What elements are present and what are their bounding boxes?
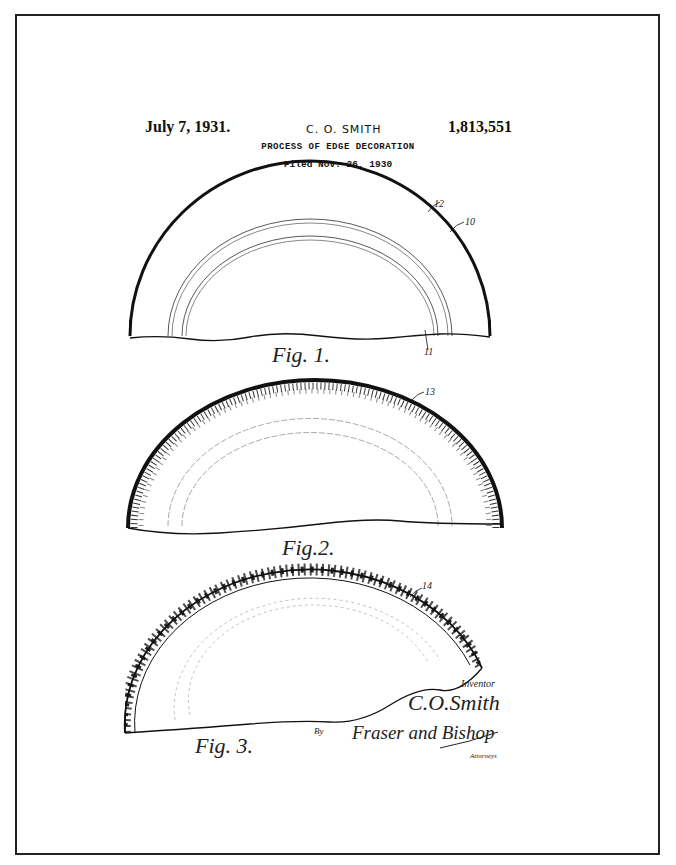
inventor-caption: Inventor xyxy=(461,678,495,689)
ref-numeral-11: 11 xyxy=(424,346,433,357)
ref-numeral-13: 13 xyxy=(425,386,435,397)
patent-drawings xyxy=(0,0,676,865)
figure-2-drawing xyxy=(128,380,502,534)
inventor-signature: C.O.Smith xyxy=(408,690,500,716)
figure-2-label: Fig.2. xyxy=(282,535,335,561)
figure-3-label: Fig. 3. xyxy=(195,733,253,759)
by-label: By xyxy=(314,726,324,736)
figure-1-drawing xyxy=(130,161,490,350)
attorneys-signature: Fraser and Bishop xyxy=(352,722,495,744)
figure-1-label: Fig. 1. xyxy=(272,342,330,368)
ref-numeral-12: 12 xyxy=(434,198,444,209)
ref-numeral-14: 14 xyxy=(422,580,432,591)
attorneys-caption: Attorneys xyxy=(470,752,497,760)
ref-numeral-10: 10 xyxy=(465,216,475,227)
